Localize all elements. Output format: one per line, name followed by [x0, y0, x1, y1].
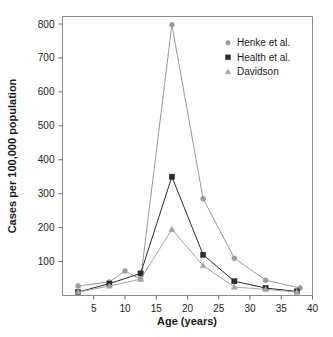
x-tick-label: 5 — [91, 303, 97, 314]
data-series-layer — [75, 22, 302, 295]
x-tick-label: 10 — [119, 303, 131, 314]
chart-figure: 100200300400500600700800 510152025303540… — [0, 0, 333, 337]
legend-marker-square-icon — [226, 55, 231, 60]
series-davidson — [75, 226, 300, 294]
data-point-marker — [169, 22, 174, 27]
x-tick-label: 30 — [244, 303, 256, 314]
legend-label: Davidson — [237, 66, 279, 77]
data-point-marker — [201, 196, 206, 201]
data-point-marker — [169, 226, 175, 231]
y-axis-title: Cases per 100,000 population — [6, 78, 18, 233]
y-axis-ticks: 100200300400500600700800 — [38, 19, 63, 268]
data-point-marker — [232, 279, 237, 284]
x-tick-label: 25 — [213, 303, 225, 314]
series-health-et-al — [76, 174, 300, 295]
line-chart: 100200300400500600700800 510152025303540… — [0, 0, 333, 337]
data-point-marker — [201, 252, 206, 257]
y-tick-label: 700 — [38, 52, 55, 63]
x-axis-ticks: 510152025303540 — [91, 296, 319, 314]
legend-label: Health et al. — [237, 52, 290, 63]
data-point-marker — [138, 271, 143, 276]
x-tick-label: 20 — [182, 303, 194, 314]
y-tick-label: 300 — [38, 188, 55, 199]
x-tick-label: 35 — [276, 303, 288, 314]
x-tick-label: 15 — [151, 303, 163, 314]
y-tick-label: 800 — [38, 19, 55, 30]
data-point-marker — [169, 174, 174, 179]
legend-label: Henke et al. — [237, 37, 290, 48]
series-line — [78, 177, 297, 292]
data-point-marker — [231, 284, 237, 289]
data-point-marker — [232, 256, 237, 261]
chart-legend: Henke et al.Health et al.Davidson — [225, 37, 290, 77]
y-tick-label: 500 — [38, 120, 55, 131]
y-tick-label: 200 — [38, 222, 55, 233]
data-point-marker — [123, 269, 128, 274]
legend-marker-triangle-icon — [225, 69, 231, 74]
x-tick-label: 40 — [307, 303, 319, 314]
x-axis-title: Age (years) — [157, 315, 217, 327]
y-tick-label: 400 — [38, 154, 55, 165]
data-point-marker — [263, 278, 268, 283]
y-tick-label: 600 — [38, 86, 55, 97]
data-point-marker — [76, 283, 81, 288]
y-tick-label: 100 — [38, 256, 55, 267]
legend-marker-circle-icon — [226, 41, 231, 46]
